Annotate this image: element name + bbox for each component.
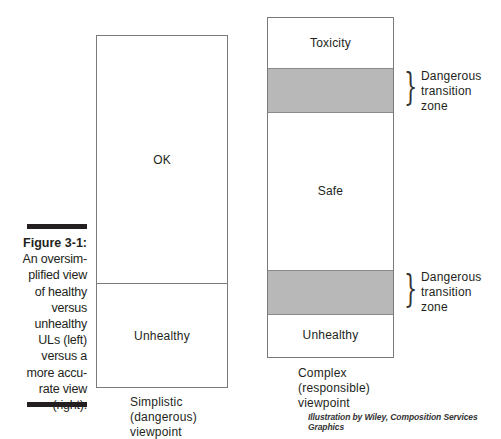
- complex-diagram: Toxicity Safe Unhealthy: [267, 17, 394, 358]
- caption-line: rate view: [0, 381, 87, 397]
- title-line: viewpoint: [130, 425, 197, 439]
- zone-label: OK: [153, 153, 171, 167]
- caption-line: An oversim-: [0, 251, 87, 267]
- annotation-line: zone: [421, 99, 482, 114]
- simplistic-diagram: OK Unhealthy: [96, 35, 228, 388]
- caption-line: more accu-: [0, 365, 87, 381]
- zone-unhealthy: Unhealthy: [97, 284, 227, 387]
- illustration-credit: Illustration by Wiley, Composition Servi…: [308, 412, 501, 432]
- annotation-upper: Dangerous transition zone: [421, 69, 482, 114]
- caption-line: versus: [0, 300, 87, 316]
- zone-unhealthy: Unhealthy: [268, 313, 393, 357]
- caption-line: plified view: [0, 267, 87, 283]
- brace-icon: }: [404, 67, 417, 105]
- title-line: Simplistic: [130, 395, 197, 410]
- simplistic-title: Simplistic (dangerous) viewpoint: [130, 395, 197, 439]
- annotation-lower: Dangerous transition zone: [421, 270, 482, 315]
- annotation-line: transition: [421, 84, 482, 99]
- zone-label: Safe: [318, 184, 344, 198]
- caption-bottom-rule: [27, 402, 87, 407]
- title-line: Complex: [298, 366, 370, 381]
- zone-label: Unhealthy: [303, 328, 359, 342]
- caption-line: unhealthy: [0, 316, 87, 332]
- zone-label: Unhealthy: [134, 329, 190, 343]
- zone-dangerous-lower: [268, 270, 393, 315]
- title-line: (responsible): [298, 381, 370, 396]
- caption-line: ULs (left): [0, 332, 87, 348]
- zone-toxicity: Toxicity: [268, 18, 393, 68]
- title-line: viewpoint: [298, 396, 370, 411]
- complex-title: Complex (responsible) viewpoint: [298, 366, 370, 411]
- caption-line: versus a: [0, 348, 87, 364]
- title-line: (dangerous): [130, 410, 197, 425]
- annotation-line: Dangerous: [421, 69, 482, 84]
- caption-line: of healthy: [0, 284, 87, 300]
- zone-label: Toxicity: [310, 36, 351, 50]
- figure-caption: Figure 3-1: An oversim- plified view of …: [0, 235, 87, 413]
- annotation-line: zone: [421, 300, 482, 315]
- annotation-line: Dangerous: [421, 270, 482, 285]
- figure-number: Figure 3-1:: [0, 235, 87, 251]
- caption-top-rule: [27, 224, 87, 229]
- annotation-line: transition: [421, 285, 482, 300]
- zone-ok: OK: [97, 36, 227, 284]
- brace-icon: }: [404, 269, 417, 307]
- zone-safe: Safe: [268, 111, 393, 271]
- zone-dangerous-upper: [268, 68, 393, 113]
